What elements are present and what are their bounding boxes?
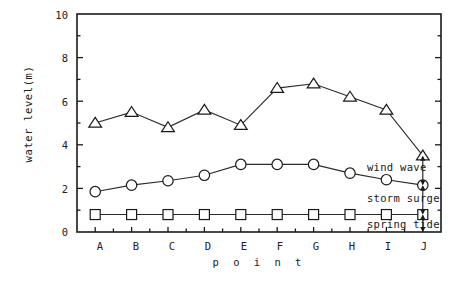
data-point-triangle <box>198 104 211 114</box>
chart-figure: water level(m) p o i n t 10 8 6 4 2 0 A … <box>0 0 459 283</box>
data-point-square <box>90 210 100 220</box>
data-point-circle <box>199 170 209 180</box>
data-point-square <box>199 210 209 220</box>
data-point-square <box>309 210 319 220</box>
annotation-label-storm-surge: storm surge <box>367 192 440 204</box>
annotation-label-spring-tide: spring tide <box>367 218 440 230</box>
data-point-circle <box>90 186 100 196</box>
data-point-triangle <box>307 78 320 88</box>
data-point-circle <box>163 176 173 186</box>
data-point-triangle <box>89 117 102 127</box>
series-triangle <box>89 78 429 160</box>
plot-area <box>0 0 459 283</box>
data-point-circle <box>308 159 318 169</box>
data-point-square <box>163 210 173 220</box>
data-point-square <box>127 210 137 220</box>
data-point-triangle <box>162 122 175 132</box>
data-point-circle <box>381 174 391 184</box>
data-point-triangle <box>380 104 393 114</box>
data-point-circle <box>126 180 136 190</box>
annotation-label-wind-wave: wind wave <box>367 161 427 173</box>
data-point-circle <box>236 159 246 169</box>
data-point-triangle <box>344 91 357 101</box>
data-point-circle <box>272 159 282 169</box>
data-point-square <box>345 210 355 220</box>
data-point-square <box>272 210 282 220</box>
data-point-triangle <box>125 107 138 117</box>
data-point-square <box>236 210 246 220</box>
data-point-circle <box>345 168 355 178</box>
